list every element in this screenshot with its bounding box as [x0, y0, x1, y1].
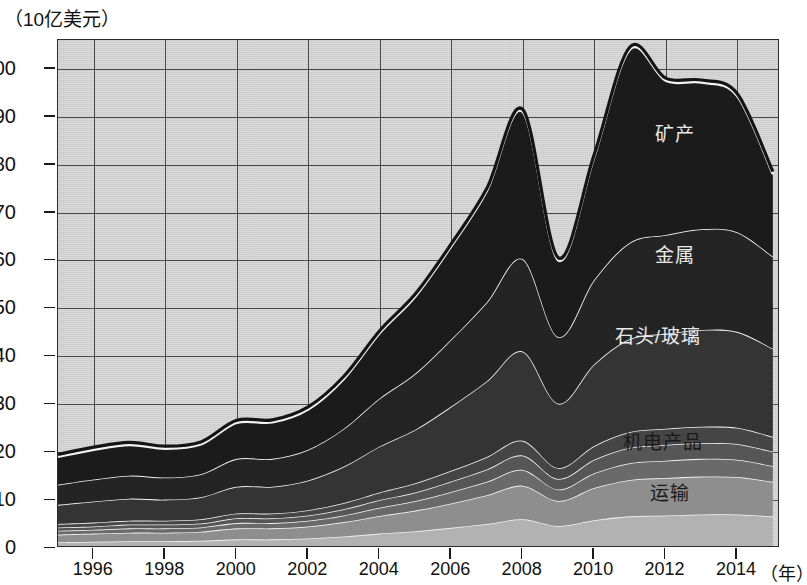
- x-tick-2004: [378, 548, 380, 559]
- x-axis-label-2006: 2006: [430, 559, 470, 580]
- x-tick-2012: [664, 548, 666, 559]
- y-axis-label-100: 100: [0, 56, 16, 79]
- y-axis-label-0: 0: [5, 536, 16, 559]
- y-tick-20: [44, 451, 55, 453]
- y-tick-100: [44, 67, 55, 69]
- x-tick-2008: [521, 548, 523, 559]
- y-axis-unit-label: （10亿美元）: [4, 4, 120, 31]
- y-axis-label-10: 10: [0, 488, 16, 511]
- stacked-area-series: [58, 40, 779, 547]
- y-axis-label-60: 60: [0, 248, 16, 271]
- y-tick-50: [44, 307, 55, 309]
- x-axis-label-2012: 2012: [645, 559, 685, 580]
- y-tick-30: [44, 403, 55, 405]
- y-axis-label-90: 90: [0, 104, 16, 127]
- plot-area: 矿产 金属 石头/玻璃 机电产品 运输: [57, 39, 779, 547]
- y-tick-10: [44, 499, 55, 501]
- x-axis-label-1998: 1998: [144, 559, 184, 580]
- x-axis-label-2004: 2004: [359, 559, 399, 580]
- x-axis-label-2008: 2008: [502, 559, 542, 580]
- y-tick-60: [44, 259, 55, 261]
- x-axis-label-1996: 1996: [73, 559, 113, 580]
- y-axis-label-20: 20: [0, 440, 16, 463]
- x-tick-1996: [92, 548, 94, 559]
- y-axis-label-50: 50: [0, 296, 16, 319]
- y-tick-0: [44, 547, 55, 549]
- x-tick-2002: [306, 548, 308, 559]
- y-axis-label-70: 70: [0, 200, 16, 223]
- x-axis-label-2010: 2010: [573, 559, 613, 580]
- x-tick-2014: [735, 548, 737, 559]
- y-axis-label-40: 40: [0, 344, 16, 367]
- x-tick-2010: [592, 548, 594, 559]
- x-tick-1998: [163, 548, 165, 559]
- x-axis-label-2000: 2000: [216, 559, 256, 580]
- y-tick-80: [44, 163, 55, 165]
- y-tick-90: [44, 115, 55, 117]
- x-tick-2006: [449, 548, 451, 559]
- x-tick-2000: [235, 548, 237, 559]
- x-axis-label-2002: 2002: [287, 559, 327, 580]
- y-axis-label-80: 80: [0, 152, 16, 175]
- x-axis-unit-label: （年）: [760, 559, 807, 585]
- y-tick-70: [44, 211, 55, 213]
- y-tick-40: [44, 355, 55, 357]
- x-axis-label-2014: 2014: [716, 559, 756, 580]
- y-axis-label-30: 30: [0, 392, 16, 415]
